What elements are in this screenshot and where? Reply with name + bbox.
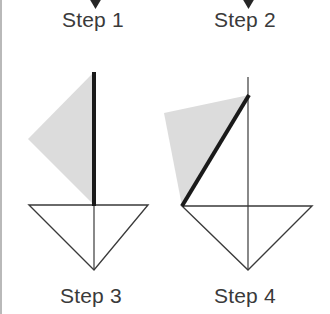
label-step-2: Step 2 [214,8,276,32]
step-3-diagram [28,72,148,270]
step-4-diagram [164,77,312,270]
triangle-outline-left [29,205,148,270]
diagram-canvas [0,0,330,314]
label-step-4: Step 4 [214,284,276,308]
triangle-outline-right [182,206,312,270]
shaded-region-right [164,95,249,206]
figure-container: Step 1 Step 2 Step 3 Step 4 [0,0,330,314]
label-step-1: Step 1 [62,8,124,32]
label-step-3: Step 3 [60,284,122,308]
shaded-region-left [28,72,94,205]
